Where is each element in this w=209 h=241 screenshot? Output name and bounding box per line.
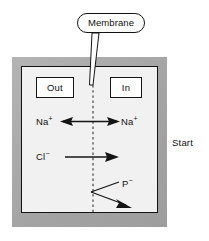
- ion-label-na-out: Na+: [36, 116, 53, 127]
- compartment-label-out: Out: [36, 77, 74, 98]
- ion-symbol-cl: Cl: [36, 151, 45, 162]
- ion-charge-cl: −: [45, 150, 49, 157]
- ion-symbol-na-in: Na: [121, 116, 134, 127]
- ion-label-p: P−: [122, 178, 133, 189]
- ion-charge-na-in: +: [134, 115, 138, 122]
- cl-arrow: [65, 152, 119, 162]
- vector-layer: [0, 0, 209, 241]
- ion-label-cl: Cl−: [36, 151, 50, 162]
- ion-charge-na-out: +: [49, 115, 53, 122]
- figure-caption-start: Start: [172, 137, 193, 148]
- na-double-arrow: [60, 117, 120, 126]
- membrane-callout-label: Membrane: [77, 13, 145, 33]
- ion-label-na-in: Na+: [121, 116, 138, 127]
- figure-canvas: Membrane Out In Na+ Na+ Cl− P− Start: [0, 0, 209, 241]
- callout-leader: [90, 33, 100, 85]
- ion-charge-p: −: [129, 177, 133, 184]
- ion-symbol-na-out: Na: [36, 116, 49, 127]
- compartment-label-in: In: [110, 77, 142, 98]
